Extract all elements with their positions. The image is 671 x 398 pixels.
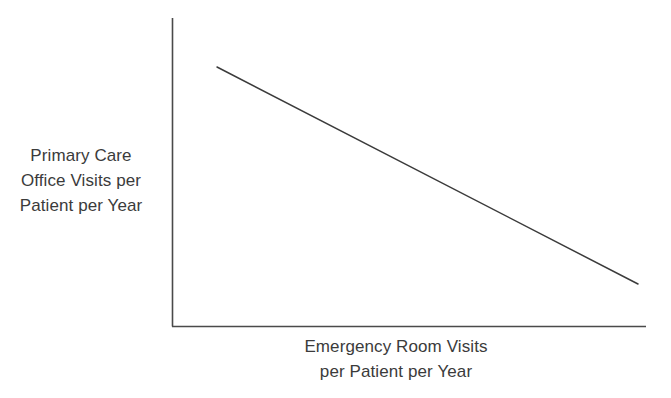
y-axis-title: Primary Care Office Visits per Patient p… xyxy=(0,143,162,218)
chart-figure: Primary Care Office Visits per Patient p… xyxy=(0,0,671,398)
y-axis-title-line-3: Patient per Year xyxy=(0,193,162,218)
y-axis-title-line-2: Office Visits per xyxy=(0,168,162,193)
y-axis-title-line-1: Primary Care xyxy=(0,143,162,168)
x-axis-title: Emergency Room Visits per Patient per Ye… xyxy=(246,334,546,384)
trend-line-series xyxy=(217,67,638,284)
x-axis-title-line-2: per Patient per Year xyxy=(246,359,546,384)
x-axis-title-line-1: Emergency Room Visits xyxy=(246,334,546,359)
